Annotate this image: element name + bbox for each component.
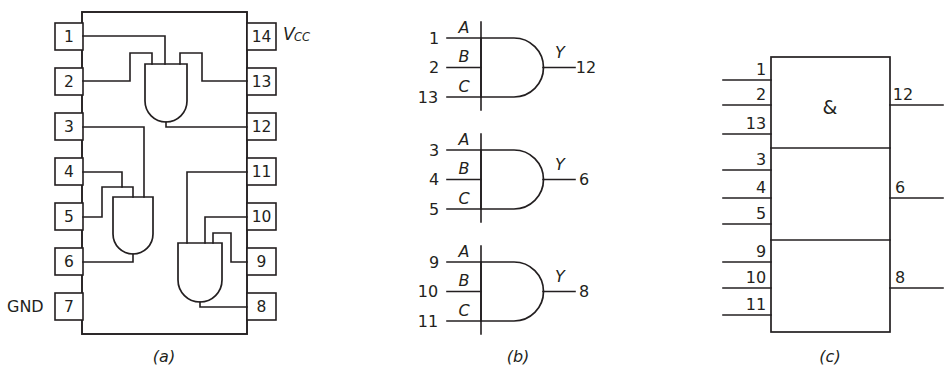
panel-c-pin-5: 5 xyxy=(756,204,766,223)
vcc-label: V CC xyxy=(283,24,310,44)
panel-b-gate-2-letter-b: B xyxy=(459,159,470,178)
figure-root: 1 2 3 4 5 6 7 14 13 12 11 10 9 8 GND V C… xyxy=(0,0,947,386)
panel-b-gate-2-letter-y: Y xyxy=(555,155,566,174)
panel-c-pin-4: 4 xyxy=(756,178,766,197)
panel-c-pin-2: 2 xyxy=(756,85,766,104)
panel-c-pin-1: 1 xyxy=(756,60,766,79)
pin-label-6: 6 xyxy=(64,253,74,271)
pin-label-9: 9 xyxy=(257,253,267,271)
panel-b-gate-3-pin-y: 8 xyxy=(579,282,589,301)
panel-a-caption: (a) xyxy=(153,347,175,366)
panel-b-caption: (b) xyxy=(507,347,530,366)
panel-c-pin-8: 8 xyxy=(895,268,905,287)
pin-label-7: 7 xyxy=(64,298,74,316)
panel-b-gate-1-pin-a: 1 xyxy=(429,29,439,48)
panel-b-gate-3-letter-y: Y xyxy=(555,267,566,286)
pin-label-4: 4 xyxy=(64,163,74,181)
panel-b-gate-2-pin-y: 6 xyxy=(579,170,589,189)
panel-b-gate-1-letter-a: A xyxy=(458,18,470,37)
panel-c-caption: (c) xyxy=(819,347,840,366)
panel-b-gate-1-pin-c: 13 xyxy=(418,88,438,107)
panel-c-pin-12: 12 xyxy=(893,85,913,104)
pin-label-10: 10 xyxy=(252,208,272,226)
pin-label-8: 8 xyxy=(257,298,267,316)
panel-c-pin-9: 9 xyxy=(756,242,766,261)
panel-b-gate-3-letter-c: C xyxy=(458,301,470,320)
panel-c-pin-10: 10 xyxy=(746,268,766,287)
pin-label-5: 5 xyxy=(64,208,74,226)
panel-b-gate-2-letter-a: A xyxy=(458,130,470,149)
pin-label-11: 11 xyxy=(252,163,272,181)
panel-b-gate-3-body xyxy=(481,262,544,321)
panel-c-pin-13: 13 xyxy=(746,114,766,133)
panel-b-gate-2-pin-a: 3 xyxy=(429,141,439,160)
pin-label-14: 14 xyxy=(252,28,272,46)
panel-b-gate-3-pin-a: 9 xyxy=(429,253,439,272)
panel-c-pin-6: 6 xyxy=(895,178,905,197)
pin-label-3: 3 xyxy=(64,118,74,136)
panel-a-gate-3 xyxy=(178,243,222,302)
panel-b-gate-2-body xyxy=(481,150,544,209)
panel-b-gate-1-letter-y: Y xyxy=(555,43,566,62)
gnd-label: GND xyxy=(7,297,44,316)
panel-a-gate-2 xyxy=(113,197,153,254)
panel-b-gate-3-letter-b: B xyxy=(459,271,470,290)
figure-canvas: 1 2 3 4 5 6 7 14 13 12 11 10 9 8 GND V C… xyxy=(0,0,947,386)
panel-b-gate-1-pin-y: 12 xyxy=(576,58,596,77)
pin-label-2: 2 xyxy=(64,73,74,91)
panel-b-gate-1-letter-c: C xyxy=(458,77,470,96)
panel-a-gate-1 xyxy=(145,64,187,122)
pin-label-1: 1 xyxy=(64,28,74,46)
panel-b-gate-1-letter-b: B xyxy=(459,47,470,66)
panel-b-gate-3-pin-b: 10 xyxy=(418,282,438,301)
panel-b-gate-2-pin-b: 4 xyxy=(429,170,439,189)
panel-b-gate-3-letter-a: A xyxy=(458,242,470,261)
pin-label-13: 13 xyxy=(252,73,272,91)
panel-b-gate-2-letter-c: C xyxy=(458,189,470,208)
panel-c-pin-11: 11 xyxy=(746,295,766,314)
pin-label-12: 12 xyxy=(252,118,272,136)
panel-b-gate-3-pin-c: 11 xyxy=(418,312,438,331)
panel-b-gate-2-pin-c: 5 xyxy=(429,200,439,219)
panel-c-and-symbol: & xyxy=(823,96,838,118)
panel-c-pin-3: 3 xyxy=(756,150,766,169)
vcc-label-sub: CC xyxy=(294,30,310,44)
panel-b-gate-1-body xyxy=(481,38,543,97)
panel-b-gate-1-pin-b: 2 xyxy=(429,58,439,77)
